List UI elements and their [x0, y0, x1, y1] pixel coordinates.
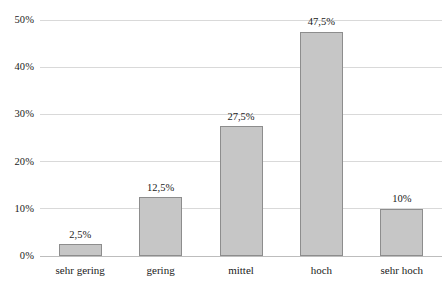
bar-value-label: 47,5% [308, 17, 335, 28]
bars-layer: 2,5%sehr gering12,5%gering27,5%mittel47,… [40, 20, 442, 256]
bar-group: 27,5%mittel [220, 20, 263, 256]
bar[interactable] [220, 126, 263, 256]
x-axis-category-label: hoch [311, 265, 332, 276]
bar-value-label: 2,5% [69, 230, 91, 241]
bar-group: 12,5%gering [139, 20, 182, 256]
x-axis-category-label: mittel [228, 265, 254, 276]
y-axis-tick-label: 50% [14, 15, 34, 26]
y-axis-tick-label: 10% [14, 204, 34, 215]
bar-value-label: 12,5% [147, 183, 174, 194]
plot-area: 0%10%20%30%40%50% 2,5%sehr gering12,5%ge… [40, 20, 442, 256]
x-axis-category-label: sehr gering [56, 265, 105, 276]
y-axis-tick-label: 20% [14, 156, 34, 167]
y-axis-tick-label: 0% [20, 251, 34, 262]
bar-chart: 0%10%20%30%40%50% 2,5%sehr gering12,5%ge… [0, 0, 448, 291]
x-axis-category-label: sehr hoch [381, 265, 423, 276]
bar[interactable] [380, 209, 423, 256]
bar[interactable] [139, 197, 182, 256]
bar-group: 2,5%sehr gering [59, 20, 102, 256]
bar-group: 47,5%hoch [300, 20, 343, 256]
bar[interactable] [300, 32, 343, 256]
bar-group: 10%sehr hoch [380, 20, 423, 256]
x-axis-category-label: gering [147, 265, 175, 276]
bar-value-label: 10% [392, 194, 411, 205]
bar-value-label: 27,5% [227, 112, 254, 123]
bar[interactable] [59, 244, 102, 256]
y-axis-tick-label: 30% [14, 109, 34, 120]
y-axis-tick-label: 40% [14, 62, 34, 73]
